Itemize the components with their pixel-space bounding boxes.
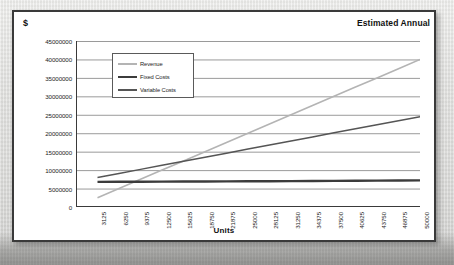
legend-item: Fixed Costs bbox=[113, 70, 193, 83]
x-axis-title: Units bbox=[14, 226, 434, 235]
y-tick-label: 45000000 bbox=[45, 38, 72, 45]
series-line-fixed-costs bbox=[98, 180, 421, 182]
y-tick-label: 30000000 bbox=[45, 93, 72, 100]
series-line-variable-costs bbox=[98, 117, 421, 178]
y-tick-label: 10000000 bbox=[45, 167, 72, 174]
chart-title: Estimated Annual bbox=[357, 18, 430, 28]
y-tick-label: 40000000 bbox=[45, 56, 72, 63]
legend-label: Revenue bbox=[140, 61, 163, 67]
chart-frame: $ Estimated Annual 450000004000000035000… bbox=[12, 10, 436, 242]
legend-swatch-icon bbox=[118, 63, 137, 65]
legend-swatch-icon bbox=[118, 89, 137, 91]
chart-legend: RevenueFixed CostsVariable Costs bbox=[112, 53, 194, 98]
legend-label: Fixed Costs bbox=[140, 74, 170, 80]
y-tick-label: 5000000 bbox=[49, 185, 72, 192]
y-tick-label: 15000000 bbox=[45, 148, 72, 155]
y-tick-label: 25000000 bbox=[45, 111, 72, 118]
y-tick-label: 0 bbox=[69, 204, 72, 211]
legend-item: Variable Costs bbox=[113, 83, 193, 96]
currency-axis-label: $ bbox=[23, 18, 28, 28]
chart-canvas: $ Estimated Annual 450000004000000035000… bbox=[14, 12, 434, 240]
x-tick-label: 6250 bbox=[122, 212, 129, 225]
x-tick-label: 3125 bbox=[100, 212, 107, 225]
x-tick-label: 9375 bbox=[143, 212, 150, 225]
y-tick-label: 35000000 bbox=[45, 74, 72, 81]
y-tick-label: 20000000 bbox=[45, 130, 72, 137]
legend-item: Revenue bbox=[113, 57, 193, 70]
legend-label: Variable Costs bbox=[140, 87, 176, 93]
legend-swatch-icon bbox=[118, 76, 137, 78]
